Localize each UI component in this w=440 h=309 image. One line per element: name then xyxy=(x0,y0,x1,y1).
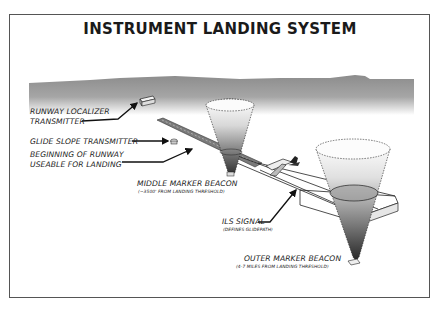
label-middle-marker: MIDDLE MARKER BEACON xyxy=(137,180,238,188)
label-ils-signal: ILS SIGNAL xyxy=(222,218,265,226)
label-runway-begin-line1: BEGINNING OF RUNWAY xyxy=(30,151,124,159)
label-outer-marker-note: (4-7 MILES FROM LANDING THRESHOLD) xyxy=(236,265,329,269)
label-runway-begin-line2: USEABLE FOR LANDING xyxy=(30,161,122,169)
label-outer-marker: OUTER MARKER BEACON xyxy=(244,255,341,263)
label-localizer-line2: TRANSMITTER xyxy=(30,118,85,126)
label-localizer-line1: RUNWAY LOCALIZER xyxy=(30,108,110,116)
label-ils-signal-note: (DEFINES GLIDEPATH) xyxy=(223,228,273,232)
label-glide-slope: GLIDE SLOPE TRANSMITTER xyxy=(30,138,138,146)
glide-slope-transmitter xyxy=(171,139,178,144)
label-middle-marker-note: (~3500' FROM LANDING THRESHOLD) xyxy=(138,190,225,194)
